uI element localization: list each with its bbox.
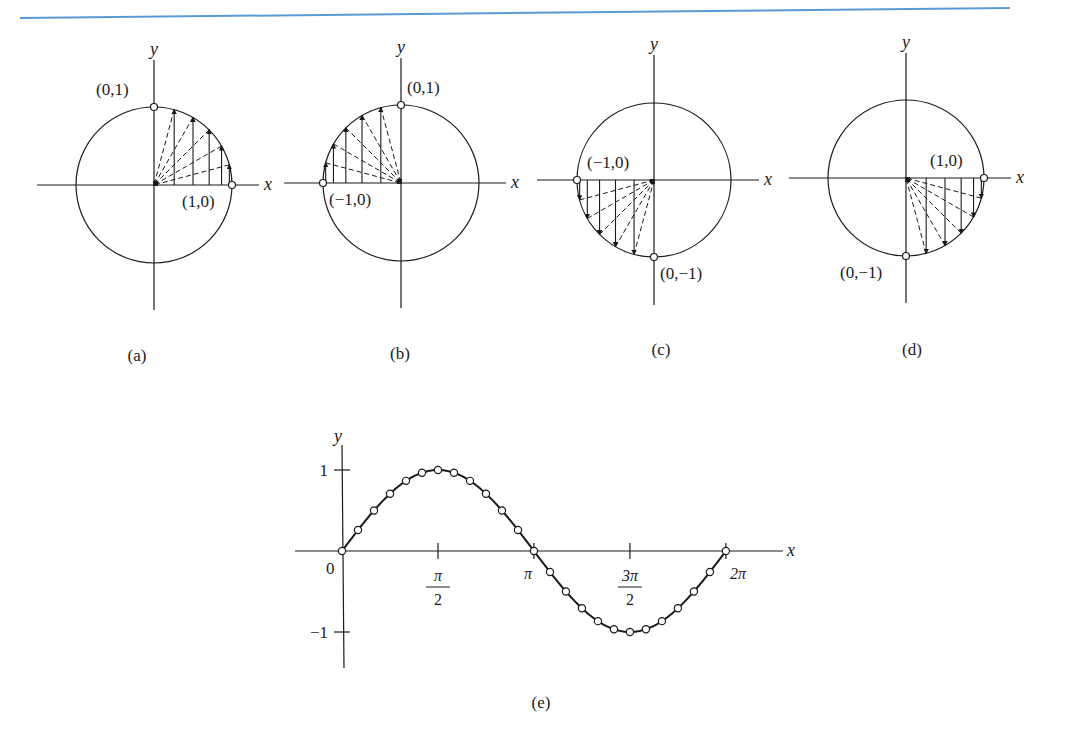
- radius-dashed-line: [346, 128, 401, 183]
- x-tick-label-numerator: π: [434, 567, 443, 584]
- point-label: (0,1): [407, 78, 440, 97]
- data-point-marker: [498, 507, 505, 514]
- y-axis-label: y: [332, 426, 342, 446]
- caption-b: (b): [390, 344, 410, 364]
- open-point-marker: [229, 182, 236, 189]
- unit-circle-panel-a: xy(0,1)(1,0): [37, 39, 272, 310]
- unit-circle-panel-b: xy(0,1)(−1,0): [284, 37, 519, 308]
- header-rule: [20, 8, 1010, 18]
- point-label: (0,−1): [840, 263, 882, 282]
- unit-circle-panel-c: xy(−1,0)(0,−1): [537, 34, 772, 305]
- point-label: (−1,0): [587, 153, 629, 172]
- point-label: (−1,0): [329, 190, 371, 209]
- radius-dashed-line: [154, 110, 174, 185]
- radius-dashed-line: [906, 178, 961, 233]
- point-label: (0,−1): [660, 264, 702, 283]
- x-tick-label: π: [524, 565, 533, 582]
- caption-e: (e): [532, 693, 551, 713]
- data-point-marker: [546, 568, 553, 575]
- open-point-marker: [320, 180, 327, 187]
- data-point-marker: [658, 618, 665, 625]
- caption-c: (c): [652, 340, 671, 360]
- x-tick-label-denominator: 2: [626, 591, 634, 608]
- open-point-marker: [651, 254, 658, 261]
- unit-circle-panel-d: xy(1,0)(0,−1): [789, 32, 1024, 303]
- data-point-marker: [434, 466, 441, 473]
- y-axis-label: y: [900, 32, 910, 52]
- radius-dashed-line: [154, 165, 229, 185]
- radius-dashed-line: [906, 178, 945, 246]
- data-point-marker: [642, 626, 649, 633]
- radius-dashed-line: [362, 115, 401, 183]
- x-tick-label: 2π: [730, 565, 747, 582]
- open-point-marker: [151, 104, 158, 111]
- radius-dashed-line: [154, 130, 209, 185]
- radius-dashed-line: [587, 180, 654, 219]
- data-point-marker: [482, 490, 489, 497]
- radius-dashed-line: [326, 163, 401, 183]
- data-point-marker: [370, 507, 377, 514]
- figure: xy(0,1)(1,0)xy(0,1)(−1,0)xy(−1,0)(0,−1)x…: [0, 0, 1080, 748]
- radius-dashed-line: [580, 180, 654, 200]
- open-point-marker: [398, 102, 405, 109]
- y-tick-label: 1: [320, 461, 329, 480]
- data-point-marker: [338, 547, 345, 554]
- data-point-marker: [354, 526, 361, 533]
- x-tick-label-numerator: 3π: [621, 567, 639, 584]
- x-axis-label: x: [263, 174, 272, 194]
- data-point-marker: [690, 588, 697, 595]
- y-axis-label: y: [648, 34, 658, 54]
- radius-dashed-line: [634, 180, 654, 254]
- radius-dashed-line: [600, 180, 654, 234]
- data-point-marker: [514, 526, 521, 533]
- data-point-marker: [722, 547, 729, 554]
- unit-circle-panels: xy(0,1)(1,0)xy(0,1)(−1,0)xy(−1,0)(0,−1)x…: [37, 32, 1024, 310]
- data-point-marker: [706, 568, 713, 575]
- data-point-marker: [626, 628, 633, 635]
- point-label: (0,1): [96, 80, 129, 99]
- point-label: (1,0): [930, 151, 963, 170]
- data-point-marker: [530, 547, 537, 554]
- point-label: (1,0): [182, 192, 215, 211]
- sine-curve-plot: xy01−1π2π3π22π: [295, 426, 795, 668]
- data-point-marker: [450, 469, 457, 476]
- data-point-marker: [402, 477, 409, 484]
- y-axis-label: y: [395, 37, 405, 57]
- caption-a: (a): [128, 346, 147, 366]
- x-axis-label: x: [1015, 167, 1024, 187]
- data-point-marker: [418, 469, 425, 476]
- origin-label: 0: [326, 559, 335, 578]
- x-axis-label: x: [763, 169, 772, 189]
- y-axis-label: y: [148, 39, 158, 59]
- y-tick-label: −1: [310, 623, 328, 642]
- x-axis-label: x: [510, 172, 519, 192]
- radius-dashed-line: [154, 117, 193, 185]
- radius-dashed-line: [381, 108, 401, 183]
- radius-dashed-line: [333, 144, 401, 183]
- data-point-marker: [562, 588, 569, 595]
- open-point-marker: [574, 177, 581, 184]
- radius-dashed-line: [616, 180, 655, 247]
- data-point-marker: [386, 490, 393, 497]
- x-tick-label-denominator: 2: [434, 591, 442, 608]
- caption-d: (d): [902, 340, 922, 360]
- open-point-marker: [981, 175, 988, 182]
- radius-dashed-line: [906, 178, 926, 253]
- data-point-marker: [594, 618, 601, 625]
- y-axis: [342, 445, 344, 668]
- data-point-marker: [610, 626, 617, 633]
- figure-canvas: xy(0,1)(1,0)xy(0,1)(−1,0)xy(−1,0)(0,−1)x…: [0, 0, 1080, 748]
- radius-dashed-line: [906, 178, 981, 198]
- data-point-marker: [578, 605, 585, 612]
- open-point-marker: [903, 253, 910, 260]
- data-point-marker: [466, 477, 473, 484]
- radius-dashed-line: [906, 178, 974, 217]
- data-point-marker: [674, 605, 681, 612]
- x-axis-label: x: [786, 540, 795, 560]
- radius-dashed-line: [154, 146, 222, 185]
